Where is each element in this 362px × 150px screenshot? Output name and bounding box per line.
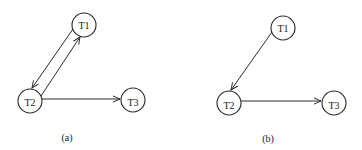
node-label: T1 <box>277 23 288 34</box>
node-label: T3 <box>328 100 339 111</box>
node-label: T2 <box>24 97 35 108</box>
diagram-a: T1 T2 T3 (a) <box>18 13 145 144</box>
node-b-t2: T2 <box>217 91 241 115</box>
node-label: T2 <box>223 100 234 111</box>
node-a-t3: T3 <box>121 88 145 112</box>
node-a-t1: T1 <box>72 13 96 37</box>
caption-b: (b) <box>262 133 274 145</box>
caption-a: (a) <box>61 132 72 144</box>
node-b-t3: T3 <box>322 91 346 115</box>
edge-b-t1-to-t2 <box>231 32 272 90</box>
diagram-b: T1 T2 T3 (b) <box>217 16 346 145</box>
node-a-t2: T2 <box>18 89 42 113</box>
diagram-canvas: T1 T2 T3 (a) T1 T2 T3 (b) <box>0 0 362 150</box>
node-b-t1: T1 <box>271 16 295 40</box>
node-label: T3 <box>127 97 138 108</box>
node-label: T1 <box>78 20 89 31</box>
